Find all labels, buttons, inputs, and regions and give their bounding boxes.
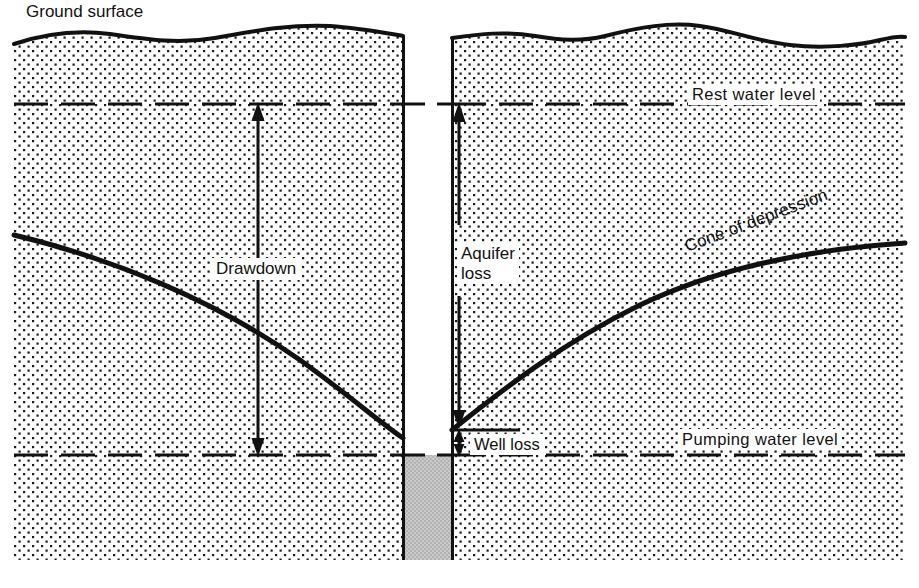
well-water-column [404,455,451,560]
left-aquifer-block [14,20,403,560]
well-drawdown-diagram: Ground surface Rest water level Pumping … [0,0,919,588]
left-aquifer-stipple [14,20,403,560]
pumping-water-level-label: Pumping water level [678,429,842,450]
ground-surface-label: Ground surface [26,2,143,22]
drawdown-label: Drawdown [212,258,300,280]
rest-water-level-label: Rest water level [688,84,820,105]
aquifer-loss-label-line1: Aquifer [461,244,515,264]
well-loss-label: Well loss [470,434,544,455]
aquifer-loss-label-line2: loss [461,264,515,284]
aquifer-loss-label: Aquifer loss [457,243,519,284]
well-bore [404,36,453,560]
